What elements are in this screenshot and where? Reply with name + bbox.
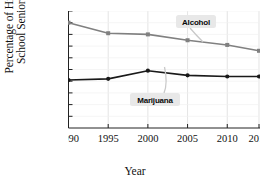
data-point-marijuana-1995 <box>106 77 110 81</box>
data-point-marijuana-2005 <box>185 73 189 77</box>
x-tick-label: 2014 <box>249 133 261 142</box>
x-tick-label: 1995 <box>98 133 119 142</box>
data-point-marijuana-2010 <box>225 74 229 78</box>
y-axis-title-line-2: School Seniors <box>16 0 28 88</box>
line-chart-svg: 10%20%30%40%50%60%70%80%90%100% 19901995… <box>68 11 260 142</box>
data-point-alcohol-2005 <box>186 38 190 42</box>
callout-tail-marijuana <box>164 67 166 93</box>
x-axis-ticks: 199019952000200520102014 <box>68 124 260 142</box>
series-line-alcohol <box>69 23 260 51</box>
x-tick-label: 1990 <box>68 133 79 142</box>
y-axis-title: Percentage of High School Seniors <box>4 0 28 88</box>
annotation-layer: AlcoholMarijuana <box>130 15 216 106</box>
plot-area: 10%20%30%40%50%60%70%80%90%100% 19901995… <box>68 11 260 142</box>
x-tick-label: 2000 <box>137 133 158 142</box>
callout-label-alcohol: Alcohol <box>182 18 210 27</box>
x-tick-label: 2010 <box>217 133 238 142</box>
data-point-alcohol-2000 <box>146 32 150 36</box>
y-axis-title-line-1: Percentage of High <box>4 0 16 88</box>
data-point-alcohol-1990 <box>68 21 71 25</box>
x-axis-title: Year <box>0 165 270 177</box>
x-tick-label: 2005 <box>177 133 198 142</box>
chart-figure: Percentage of High School Seniors 10%20%… <box>0 0 270 183</box>
series-line-marijuana <box>69 71 260 80</box>
data-point-alcohol-1995 <box>106 31 110 35</box>
callout-alcohol: Alcohol <box>176 15 216 42</box>
data-point-alcohol-2010 <box>225 43 229 47</box>
callout-tail-alcohol <box>190 28 203 42</box>
callout-label-marijuana: Marijuana <box>137 96 173 105</box>
data-point-marijuana-2014 <box>257 74 260 78</box>
data-series-layer <box>68 21 260 82</box>
data-point-marijuana-2000 <box>146 69 150 73</box>
data-point-alcohol-2014 <box>257 49 260 53</box>
